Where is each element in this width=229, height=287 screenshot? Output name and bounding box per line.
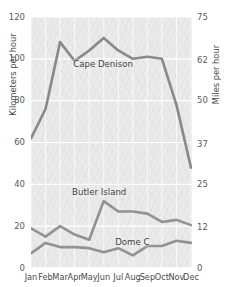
y-axis-left-title: Kilometers per hour <box>9 25 18 125</box>
series-label-cape-denison: Cape Denison <box>73 59 133 69</box>
y-axis-left-tick: 60 <box>3 138 25 147</box>
series-label-dome-c: Dome C <box>115 237 149 247</box>
y-axis-left-tick: 20 <box>3 222 25 231</box>
y-axis-right-tick: 25 <box>197 180 219 189</box>
plot-area: Cape Denison Butler Island Dome C <box>31 17 192 268</box>
line-chart: Cape Denison Butler Island Dome C 120100… <box>0 0 229 287</box>
y-axis-right-title: Miles per hour <box>212 25 221 125</box>
series-label-butler-island: Butler Island <box>72 187 126 197</box>
y-axis-left-tick: 40 <box>3 180 25 189</box>
x-axis-tick: Dec <box>180 272 202 282</box>
y-axis-right-tick: 37 <box>197 140 219 149</box>
plot-svg <box>31 17 192 268</box>
y-axis-right-tick: 12 <box>197 223 219 232</box>
y-axis-left-tick: 120 <box>3 13 25 22</box>
y-axis-right-tick: 75 <box>197 13 219 22</box>
series-lines <box>31 38 191 256</box>
